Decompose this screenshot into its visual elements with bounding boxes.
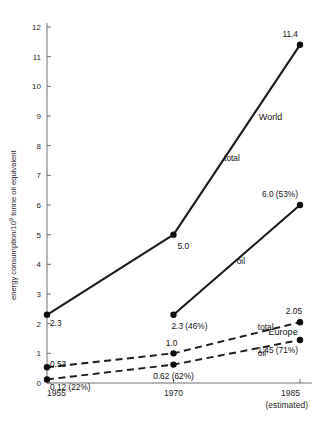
data-point-label: 0.53 — [50, 359, 67, 369]
y-axis-title-suffix: tonne oil equivalent — [9, 149, 18, 217]
y-tick-label: 12 — [32, 23, 41, 32]
y-tick-label: 8 — [37, 142, 42, 151]
y-axis-title: energy consumption/109 tonne oil equival… — [8, 149, 18, 300]
energy-consumption-chart: 0123456789101112 195519701985(estimated)… — [0, 0, 335, 423]
y-tick-label: 3 — [37, 290, 42, 299]
data-point-label: 2.3 (46%) — [172, 321, 208, 331]
data-point-label: 0.12 (22%) — [50, 382, 91, 392]
x-tick-label: 1985 — [281, 388, 300, 398]
data-point-label: 2.05 — [286, 306, 303, 316]
data-point-marker — [170, 350, 176, 356]
group-label: Europe — [269, 327, 298, 337]
series-inline-label: oil — [237, 256, 245, 266]
y-axis-title-prefix: energy consumption/10 — [9, 221, 18, 300]
data-point-label: 5.0 — [178, 241, 190, 251]
y-tick-label: 4 — [37, 260, 42, 269]
series-inline-label: oil — [258, 348, 266, 358]
x-axis-estimated-note: (estimated) — [265, 400, 308, 410]
y-tick-label: 1 — [37, 349, 42, 358]
y-tick-label: 7 — [37, 171, 42, 180]
data-point-label: 11.4 — [282, 29, 298, 39]
data-point-marker — [297, 42, 303, 48]
y-tick-label: 6 — [37, 201, 42, 210]
y-tick-label: 5 — [37, 231, 42, 240]
y-tick-label: 10 — [32, 82, 41, 91]
data-point-label: 2.3 — [50, 318, 62, 328]
y-tick-label: 11 — [33, 53, 42, 62]
data-point-marker — [297, 202, 303, 208]
data-point-marker — [297, 337, 303, 343]
series-inline-label: total — [224, 153, 240, 163]
data-point-label: 0.62 (62%) — [153, 371, 194, 381]
data-point-marker — [170, 361, 176, 367]
data-point-label: 6.0 (53%) — [262, 189, 298, 199]
data-point-marker — [170, 312, 176, 318]
y-tick-label: 0 — [37, 379, 42, 388]
y-tick-label: 9 — [37, 112, 42, 121]
axis-titles: energy consumption/109 tonne oil equival… — [8, 149, 18, 300]
data-point-label: 1.0 — [166, 338, 178, 348]
x-tick-label: 1970 — [164, 388, 183, 398]
y-tick-label: 2 — [37, 320, 42, 329]
data-point-marker — [170, 231, 176, 237]
group-label: World — [259, 112, 282, 122]
chart-canvas: 0123456789101112 195519701985(estimated)… — [0, 0, 335, 423]
data-point-marker — [297, 319, 303, 325]
